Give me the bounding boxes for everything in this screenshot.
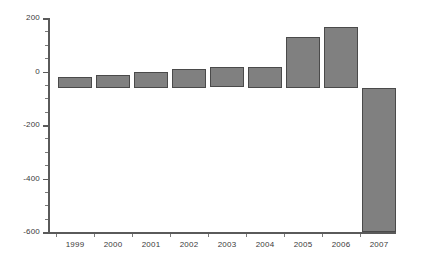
x-tick-label: 2007 xyxy=(359,240,399,249)
x-minor-tick xyxy=(94,234,95,237)
x-tick-label: 2004 xyxy=(245,240,285,249)
y-tick-200 xyxy=(43,18,48,20)
y-minor-tick xyxy=(45,152,48,153)
y-tick-label: -200 xyxy=(10,120,40,129)
x-tick-label: 2000 xyxy=(93,240,133,249)
bar-1999 xyxy=(58,77,92,88)
bar-2000 xyxy=(96,75,130,88)
bar-2003 xyxy=(210,67,244,87)
x-tick-label: 2006 xyxy=(321,240,361,249)
bar-2006 xyxy=(324,27,358,87)
y-minor-tick xyxy=(45,98,48,99)
y-minor-tick xyxy=(45,45,48,46)
y-tick-label: -600 xyxy=(10,227,40,236)
x-tick-label: 2001 xyxy=(131,240,171,249)
y-minor-tick xyxy=(45,85,48,86)
y-tick-label: 200 xyxy=(10,13,40,22)
y-minor-tick xyxy=(45,58,48,59)
bar-2004 xyxy=(248,67,282,88)
x-minor-tick xyxy=(360,234,361,237)
x-axis-line xyxy=(48,232,396,234)
bar-chart: 200 0 -200 -400 -600 1999 2000 2001 2002… xyxy=(0,0,421,262)
bar-2001 xyxy=(134,72,168,88)
x-minor-tick xyxy=(322,234,323,237)
y-minor-tick xyxy=(45,219,48,220)
bar-2002 xyxy=(172,69,206,87)
x-minor-tick xyxy=(56,234,57,237)
x-minor-tick xyxy=(132,234,133,237)
x-minor-tick xyxy=(170,234,171,237)
x-tick-label: 1999 xyxy=(55,240,95,249)
y-minor-tick xyxy=(45,205,48,206)
y-axis-line xyxy=(48,18,50,233)
x-tick-label: 2003 xyxy=(207,240,247,249)
y-minor-tick xyxy=(45,165,48,166)
y-minor-tick xyxy=(45,138,48,139)
y-tick-label: 0 xyxy=(10,67,40,76)
x-minor-tick xyxy=(246,234,247,237)
y-tick-minus600 xyxy=(43,232,48,234)
x-tick-label: 2002 xyxy=(169,240,209,249)
y-tick-minus200 xyxy=(43,125,48,127)
y-minor-tick xyxy=(45,31,48,32)
bar-2007 xyxy=(362,88,396,233)
y-minor-tick xyxy=(45,112,48,113)
x-minor-tick xyxy=(284,234,285,237)
x-tick-label: 2005 xyxy=(283,240,323,249)
x-minor-tick xyxy=(208,234,209,237)
y-tick-0 xyxy=(43,72,48,74)
y-tick-label: -400 xyxy=(10,174,40,183)
bar-2005 xyxy=(286,37,320,88)
y-tick-minus400 xyxy=(43,179,48,181)
y-minor-tick xyxy=(45,192,48,193)
